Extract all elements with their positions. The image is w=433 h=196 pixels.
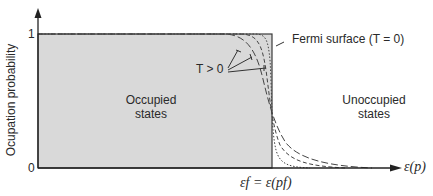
unoccupied-label-2: states <box>324 108 424 121</box>
occupied-label-2: states <box>112 108 190 121</box>
fermi-level-label: εf = ε(pf) <box>240 176 292 189</box>
fermi-leader-line <box>276 42 284 46</box>
occupied-label-1: Occupied <box>112 94 190 107</box>
y-axis-arrow-icon <box>35 8 42 18</box>
y-tick-1: 1 <box>28 28 35 41</box>
temperature-label: T > 0 <box>196 63 223 76</box>
y-tick-0: 0 <box>28 162 35 175</box>
fermi-surface-label: Fermi surface (T = 0) <box>292 33 404 46</box>
x-axis-arrow-icon <box>390 165 402 172</box>
unoccupied-label-1: Unoccupied <box>324 94 424 107</box>
x-axis-label: ε(p) <box>404 160 426 173</box>
y-axis-label: Ocupation probability <box>4 44 18 157</box>
